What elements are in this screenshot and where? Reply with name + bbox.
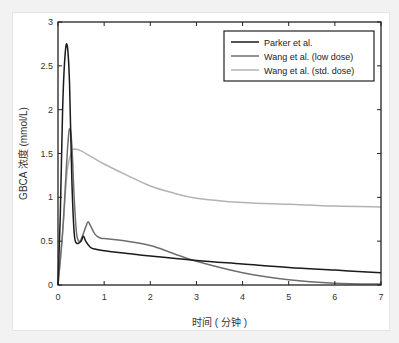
x-tick-label: 5 [286, 292, 291, 302]
y-tick-label: 1 [48, 192, 53, 202]
x-tick-label: 4 [240, 292, 245, 302]
x-tick-label: 3 [194, 292, 199, 302]
x-tick-label: 1 [102, 292, 107, 302]
line-chart: 0123456700.511.522.53 Parker et al.Wang … [0, 0, 399, 343]
x-axis-title: 时间 ( 分钟 ) [192, 316, 247, 328]
legend-entry: Wang et al. (low dose) [264, 52, 353, 62]
y-tick-label: 1.5 [40, 149, 53, 159]
y-tick-label: 2.5 [40, 61, 53, 71]
x-tick-label: 7 [378, 292, 383, 302]
legend-entry: Wang et al. (std. dose) [264, 66, 354, 76]
series-line-2 [58, 149, 381, 285]
legend: Parker et al.Wang et al. (low dose)Wang … [224, 31, 374, 81]
x-tick-label: 2 [148, 292, 153, 302]
y-tick-label: 0 [48, 280, 53, 290]
y-tick-label: 3 [48, 17, 53, 27]
legend-entry: Parker et al. [264, 38, 313, 48]
x-tick-label: 0 [55, 292, 60, 302]
y-tick-label: 2 [48, 105, 53, 115]
y-tick-label: 0.5 [40, 236, 53, 246]
x-tick-label: 6 [332, 292, 337, 302]
y-axis-title: GBCA 浓度 (mmol/L) [17, 107, 29, 200]
